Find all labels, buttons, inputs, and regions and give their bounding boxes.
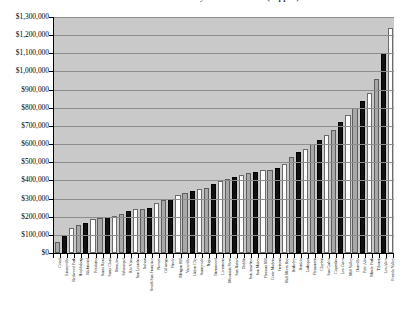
bar [90, 219, 95, 253]
bar [76, 225, 81, 253]
bar [175, 195, 180, 253]
x-tick-label: Berkeley [292, 258, 296, 272]
bar [168, 199, 173, 253]
x-tick-label: Benicia [299, 258, 303, 270]
gridline [54, 235, 394, 236]
bar [303, 149, 308, 253]
bar [289, 157, 294, 253]
y-tick-label: $200,000 [0, 213, 49, 220]
x-tick-label: Mountain View [228, 258, 232, 283]
x-tick-label: Corte Madera [271, 258, 275, 280]
gridline [54, 162, 394, 163]
bar [388, 28, 393, 253]
bar [381, 53, 386, 253]
y-axis: $0$100,000$200,000$300,000$400,000$500,0… [0, 11, 49, 259]
x-tick-label: Menlo Park [370, 258, 374, 277]
x-tick-label: San Carlos [327, 258, 331, 275]
x-tick-label: Hercules [115, 258, 119, 272]
bar [260, 170, 265, 253]
y-tick-label: $1,300,000 [0, 13, 49, 20]
gridline [54, 71, 394, 72]
x-tick-label: Cotati [58, 258, 62, 268]
x-tick-label: Vacaville [186, 258, 190, 273]
x-tick-label: Napa [207, 258, 211, 266]
bar [119, 214, 124, 253]
gridline [54, 35, 394, 36]
bar [282, 164, 287, 253]
y-tick-label: $1,000,000 [0, 68, 49, 75]
x-tick-label: Tiburon [377, 258, 381, 271]
bar [69, 228, 74, 253]
x-tick-label: Danville [356, 258, 360, 272]
x-tick-label: Santa Rosa [101, 258, 105, 276]
x-tick-label: Pleasant Hill [264, 258, 268, 279]
bar [246, 173, 251, 253]
x-tick-label: Mill Valley [349, 258, 353, 276]
bar [360, 101, 365, 253]
x-tick-label: Rio Vista [129, 258, 133, 273]
y-tick-label: $1,200,000 [0, 31, 49, 38]
bar [296, 152, 301, 253]
y-tick-label: $900,000 [0, 86, 49, 93]
x-tick-label: San Rafael [235, 258, 239, 275]
x-tick-label: Dublin [242, 258, 246, 269]
gridline [54, 90, 394, 91]
bar [374, 79, 379, 253]
x-tick-label: Emeryville [65, 258, 69, 276]
x-tick-label: Larkspur [306, 258, 310, 272]
bar [55, 242, 60, 253]
y-tick-label: $400,000 [0, 177, 49, 184]
bar [161, 200, 166, 253]
x-tick-label: Suisun [143, 258, 147, 269]
bar [239, 175, 244, 253]
bar [317, 140, 322, 253]
x-tick-label: Morgan Hill [179, 258, 183, 278]
gridline [54, 180, 394, 181]
gridline [54, 108, 394, 109]
x-tick-label: San Leandro [136, 258, 140, 278]
x-tick-label: Petaluma [94, 258, 98, 273]
x-tick-label: Sunnyvale [200, 258, 204, 275]
x-tick-label: Clayton [320, 258, 324, 271]
bar [204, 188, 209, 253]
x-tick-label: Livermore [221, 258, 225, 275]
bar-chart: Median Home Prices in Bay Area Cities 20… [0, 0, 403, 312]
x-tick-label: Palo Alto [363, 258, 367, 273]
y-tick-label: $500,000 [0, 159, 49, 166]
x-tick-label: Novato [157, 258, 161, 270]
x-tick-label: Los Altos [384, 258, 388, 273]
bar [367, 93, 372, 253]
bar [154, 203, 159, 253]
gridline [54, 126, 394, 127]
y-tick-label: $600,000 [0, 140, 49, 147]
bar [83, 223, 88, 253]
x-tick-label: Los Gatos [341, 258, 345, 274]
x-tick-label: Brentwood [214, 258, 218, 276]
y-tick-label: $100,000 [0, 231, 49, 238]
bar [62, 236, 67, 253]
x-tick-label: San Mateo [256, 258, 260, 275]
gridline [54, 144, 394, 145]
plot-area [53, 17, 394, 254]
bar [338, 122, 343, 253]
x-tick-label: Cupertino [334, 258, 338, 274]
x-tick-label: Richmond [86, 258, 90, 275]
gridline [54, 199, 394, 200]
x-tick-label: Pinole [171, 258, 175, 268]
x-tick-label: Calistoga [164, 258, 168, 273]
bar [267, 170, 272, 254]
x-tick-label: Portola Valley [391, 258, 395, 281]
y-tick-label: $800,000 [0, 104, 49, 111]
bar [182, 193, 187, 253]
gridline [54, 217, 394, 218]
gridline [54, 53, 394, 54]
x-tick-label: Santa Clara [108, 258, 112, 277]
x-tick-label: Pleasanton [313, 258, 317, 275]
x-tick-label: South San Francisco [150, 258, 154, 291]
x-tick-label: Half Moon Bay [285, 258, 289, 283]
x-tick-label: Union City [193, 258, 197, 276]
y-tick-label: $1,100,000 [0, 50, 49, 57]
y-tick-label: $0 [0, 249, 49, 256]
y-tick-label: $300,000 [0, 195, 49, 202]
x-axis-labels: CotatiEmeryvilleRedwood ParkHealdsburgRi… [53, 258, 393, 312]
